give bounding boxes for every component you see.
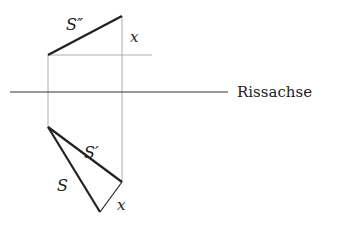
- label-s-prime: S′: [84, 143, 99, 162]
- label-x-top: x: [130, 28, 139, 46]
- label-rissachse: Rissachse: [237, 83, 312, 101]
- label-x-bottom: x: [117, 196, 126, 214]
- s-double-prime-segment: [48, 16, 122, 55]
- label-s-double-prime: S″: [66, 15, 83, 34]
- descriptive-geometry-diagram: S″ x Rissachse S′ S x: [0, 0, 344, 227]
- s-true-length-segment: [48, 127, 100, 212]
- label-s: S: [57, 176, 68, 195]
